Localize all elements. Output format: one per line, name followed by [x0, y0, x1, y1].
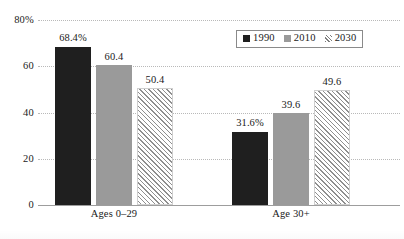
bar-value-label: 31.6%	[236, 118, 264, 129]
bar-2010-age-30-plus: 39.6	[273, 113, 309, 205]
gridline-80	[38, 20, 400, 21]
bar-1990-age-30-plus: 31.6%	[232, 132, 268, 205]
bar-2030-ages-0-29: 50.4	[137, 88, 173, 205]
bar-value-label: 39.6	[282, 100, 301, 111]
y-axis-tick-80: 80%	[0, 15, 34, 26]
bar-chart: 80% 60 40 20 0 68.4% 60.4 50.4 31.6% 39.…	[0, 0, 404, 239]
legend-label-2030: 2030	[335, 33, 357, 44]
legend-swatch-icon-2010	[284, 35, 291, 42]
bar-2010-ages-0-29: 60.4	[96, 65, 132, 205]
bar-value-label: 60.4	[105, 52, 124, 63]
bar-value-label: 68.4%	[59, 33, 87, 44]
bar-2030-age-30-plus: 49.6	[314, 90, 350, 205]
legend-item-1990[interactable]: 1990	[243, 33, 275, 44]
legend-label-2010: 2010	[294, 33, 316, 44]
x-axis-label-age-30-plus: Age 30+	[272, 209, 310, 220]
y-axis-tick-20: 20	[0, 154, 34, 165]
x-axis-label-ages-0-29: Ages 0–29	[91, 209, 138, 220]
bar-value-label: 50.4	[146, 75, 165, 86]
legend-swatch-icon-1990	[243, 35, 250, 42]
y-axis-tick-60: 60	[0, 61, 34, 72]
plot-area: 68.4% 60.4 50.4 31.6% 39.6 49.6	[38, 20, 400, 205]
legend-item-2030[interactable]: 2030	[325, 33, 357, 44]
bar-1990-ages-0-29: 68.4%	[55, 47, 91, 205]
legend-swatch-icon-2030	[325, 35, 332, 42]
gridline-60	[38, 66, 400, 67]
y-axis-tick-0: 0	[0, 200, 34, 211]
legend-item-2010[interactable]: 2010	[284, 33, 316, 44]
scan-artifact	[0, 230, 404, 239]
bar-value-label: 49.6	[323, 77, 342, 88]
legend: 1990 2010 2030	[236, 30, 363, 48]
legend-label-1990: 1990	[253, 33, 275, 44]
y-axis-tick-40: 40	[0, 108, 34, 119]
x-axis-baseline	[38, 205, 400, 206]
